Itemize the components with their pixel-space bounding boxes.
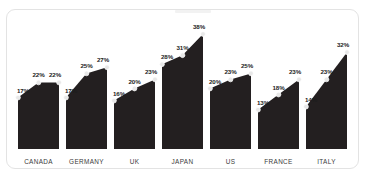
data-point-marker[interactable] bbox=[64, 95, 69, 100]
category-label-us: US bbox=[226, 158, 236, 165]
value-label: 27% bbox=[97, 57, 109, 63]
data-point-marker[interactable] bbox=[16, 95, 21, 100]
data-point-marker[interactable] bbox=[132, 86, 137, 91]
category-label-germany: GERMANY bbox=[69, 158, 104, 165]
value-label: 25% bbox=[241, 63, 253, 69]
value-label: 23% bbox=[320, 69, 332, 75]
value-label: 23% bbox=[289, 69, 301, 75]
area-shape-italy bbox=[306, 10, 347, 168]
country-group-uk: 16%20%23%UK bbox=[114, 10, 155, 168]
chart-card: 17%22%22%CANADA17%25%27%GERMANY16%20%23%… bbox=[6, 9, 359, 169]
value-label: 13% bbox=[257, 99, 269, 105]
data-point-marker[interactable] bbox=[160, 62, 165, 67]
data-point-marker[interactable] bbox=[228, 77, 233, 82]
data-point-marker[interactable] bbox=[249, 71, 254, 76]
value-label: 20% bbox=[209, 78, 221, 84]
data-point-marker[interactable] bbox=[201, 32, 206, 37]
value-label: 32% bbox=[337, 42, 349, 48]
data-point-marker[interactable] bbox=[208, 86, 213, 91]
area-shape-japan bbox=[162, 10, 203, 168]
country-group-japan: 28%31%38%JAPAN bbox=[162, 10, 203, 168]
value-label: 14% bbox=[305, 96, 317, 102]
data-point-marker[interactable] bbox=[84, 71, 89, 76]
category-label-france: FRANCE bbox=[264, 158, 292, 165]
value-label: 25% bbox=[80, 63, 92, 69]
value-label: 17% bbox=[65, 87, 77, 93]
category-label-canada: CANADA bbox=[24, 158, 53, 165]
value-label: 22% bbox=[32, 72, 44, 78]
data-point-marker[interactable] bbox=[297, 77, 302, 82]
area-fill bbox=[162, 34, 203, 149]
category-label-italy: ITALY bbox=[317, 158, 336, 165]
value-label: 38% bbox=[193, 24, 205, 30]
data-point-marker[interactable] bbox=[36, 80, 41, 85]
area-shape-us bbox=[210, 10, 251, 168]
data-point-marker[interactable] bbox=[276, 92, 281, 97]
chart-plot-area: 17%22%22%CANADA17%25%27%GERMANY16%20%23%… bbox=[7, 10, 358, 168]
data-point-marker[interactable] bbox=[180, 53, 185, 58]
country-group-germany: 17%25%27%GERMANY bbox=[66, 10, 107, 168]
value-label: 23% bbox=[224, 69, 236, 75]
data-point-marker[interactable] bbox=[304, 104, 309, 109]
category-label-uk: UK bbox=[130, 158, 140, 165]
value-label: 22% bbox=[49, 72, 61, 78]
data-point-marker[interactable] bbox=[153, 77, 158, 82]
country-group-canada: 17%22%22%CANADA bbox=[18, 10, 59, 168]
value-label: 23% bbox=[145, 69, 157, 75]
country-group-france: 13%18%23%FRANCE bbox=[258, 10, 299, 168]
value-label: 17% bbox=[17, 87, 29, 93]
data-point-marker[interactable] bbox=[112, 98, 117, 103]
value-label: 16% bbox=[113, 90, 125, 96]
country-group-italy: 14%23%32%ITALY bbox=[306, 10, 347, 168]
data-point-marker[interactable] bbox=[57, 80, 62, 85]
category-label-japan: JAPAN bbox=[172, 158, 194, 165]
data-point-marker[interactable] bbox=[256, 107, 261, 112]
value-label: 18% bbox=[272, 84, 284, 90]
data-point-marker[interactable] bbox=[324, 77, 329, 82]
country-group-us: 20%23%25%US bbox=[210, 10, 251, 168]
data-point-marker[interactable] bbox=[345, 50, 350, 55]
value-label: 28% bbox=[161, 54, 173, 60]
area-fill bbox=[210, 73, 251, 149]
value-label: 31% bbox=[176, 45, 188, 51]
value-label: 20% bbox=[128, 78, 140, 84]
data-point-marker[interactable] bbox=[105, 65, 110, 70]
area-fill bbox=[66, 67, 107, 149]
